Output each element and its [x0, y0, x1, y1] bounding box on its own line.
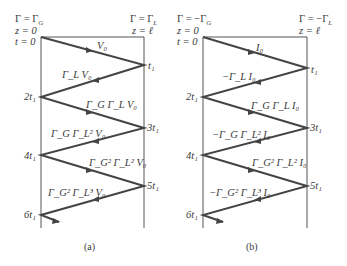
diagram-a-right-z: z = ℓ	[132, 26, 153, 37]
diagram-b-wave-5: Γ_G² Γ_L² I₀	[252, 158, 307, 169]
diagram-a-wave-6: Γ_G² Γ_L³ V₀	[48, 188, 105, 199]
diagram-b-right-z: z = ℓ	[299, 26, 320, 37]
diagram-b-left-gamma: Γ = −ΓG	[177, 14, 211, 25]
diagram-b-left-z: z = 0	[177, 26, 199, 37]
diagram-a-time-3t1: 3t₁	[147, 123, 159, 134]
diagram-a-wave-3: Γ_G Γ_L V₀	[86, 100, 137, 111]
diagram-a-caption: (a)	[84, 241, 95, 252]
diagram-b-right-gamma: Γ = −ΓL	[299, 14, 332, 25]
diagram-a-wave-5: Γ_G² Γ_L² V₀	[89, 158, 146, 169]
diagram-a-time-5t1: 5t₁	[147, 181, 159, 192]
diagram-b-time-5t1: 5t₁	[310, 181, 322, 192]
diagram-a-left-t: t = 0	[15, 37, 36, 48]
diagram-b-time-t1: t₁	[311, 65, 318, 76]
diagram-a-time-t1: t₁	[148, 61, 155, 72]
diagram-b-time-3t1: 3t₁	[310, 123, 322, 134]
diagram-a-time-2t1: 2t₁	[24, 92, 36, 103]
diagram-b-time-6t1: 6t₁	[186, 210, 198, 221]
diagram-a-wave-4: Γ_G Γ_L² V₀	[51, 129, 105, 140]
diagram-b-wave-4: −Γ_G Γ_L² I₀	[212, 130, 271, 141]
diagram-b-wave-2: −Γ_L I₀	[222, 72, 256, 83]
diagram-a-time-4t1: 4t₁	[24, 151, 36, 162]
diagram-a-time-6t1: 6t₁	[24, 210, 36, 221]
diagram-b-left-t: t = 0	[177, 37, 198, 48]
diagram-a-left-z: z = 0	[15, 26, 37, 37]
diagram-a-left-gamma: Γ = ΓG	[15, 14, 43, 25]
diagram-b-wave-1: I₀	[256, 43, 263, 54]
diagram-a-wave-1: V₀	[97, 41, 107, 52]
diagram-b-wave-6: −Γ_G² Γ_L³ I₀	[209, 188, 271, 199]
diagram-a-wave-2: Γ_L V₀	[62, 70, 92, 81]
diagram-b-wave-3: Γ_G Γ_L I₀	[251, 101, 299, 112]
diagram-a-right-gamma: Γ = ΓL	[130, 14, 157, 25]
diagram-b-time-4t1: 4t₁	[186, 151, 198, 162]
diagram-b-caption: (b)	[246, 241, 258, 252]
diagram-b-time-2t1: 2t₁	[186, 92, 198, 103]
